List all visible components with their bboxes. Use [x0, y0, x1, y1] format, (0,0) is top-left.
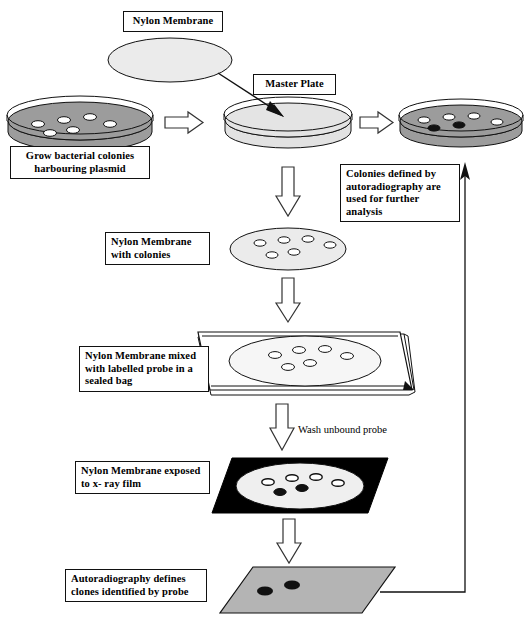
label-membrane-probe-bag: Nylon Membrane mixed with labelled probe…	[79, 346, 209, 392]
stage-sealed-bag	[198, 332, 415, 395]
stage-xray-film	[212, 458, 388, 513]
label-membrane-xray: Nylon Membrane exposed to x- ray film	[75, 461, 210, 494]
arrow-plate1-to-master	[165, 112, 203, 133]
arrow-master-down	[276, 167, 300, 216]
label-nylon-membrane: Nylon Membrane	[123, 11, 223, 32]
arrow-master-to-replica	[360, 112, 393, 133]
label-membrane-with-colonies: Nylon Membrane with colonies	[105, 232, 210, 265]
arrow-wash-down	[270, 404, 294, 450]
label-wash-unbound-probe: Wash unbound probe	[298, 424, 387, 436]
stage-membrane-with-colonies	[230, 228, 346, 270]
stage-master-plate-dish	[224, 97, 352, 148]
stage-autoradiograph	[220, 567, 395, 613]
label-grow-colonies: Grow bacterial colonies harbouring plasm…	[10, 146, 150, 179]
diagram-canvas: Nylon Membrane Master Plate Grow bacteri…	[0, 0, 527, 621]
arrow-film-down	[277, 519, 301, 563]
label-master-plate: Master Plate	[253, 74, 336, 95]
label-colonies-defined: Colonies defined by autoradiography are …	[340, 164, 460, 222]
label-autoradiography-defines: Autoradiography defines clones identifie…	[65, 569, 207, 602]
stage-grow-colonies-dish	[7, 96, 153, 151]
stage-nylon-membrane-blank	[108, 38, 232, 82]
stage-replica-plate-dish	[399, 99, 523, 147]
arrow-membrane-down	[276, 278, 300, 322]
